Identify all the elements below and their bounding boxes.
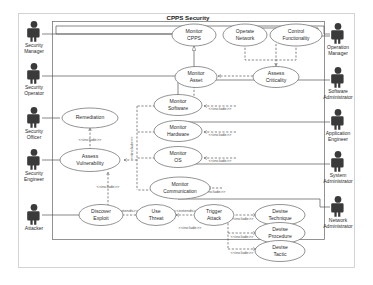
stereotype-include: <<include>> [178, 225, 202, 230]
usecase-label: Trigger [206, 208, 222, 214]
usecase-label: Monitor [170, 150, 187, 156]
usecase-label: Assess [82, 153, 99, 159]
diagram-canvas: CPPS Security Security Manager Security … [0, 0, 373, 285]
usecase-label: Attack [207, 215, 222, 221]
usecase-label: Monitor [172, 181, 189, 187]
actor-icon [331, 196, 343, 217]
usecase-label: Monitor [170, 98, 187, 104]
actor-label: Manager [24, 48, 44, 54]
usecase-monitor-communication[interactable]: Monitor Communication [150, 177, 210, 199]
stereotype-include: <<include>> [129, 136, 134, 160]
actor-icon [331, 67, 343, 88]
actor-application-engineer[interactable]: Application Engineer [326, 109, 351, 142]
actor-label: Engineer [328, 136, 348, 142]
usecase-label: Network [236, 35, 255, 41]
usecase-label: Tactic [273, 251, 286, 257]
usecase-label: Communication [163, 189, 197, 194]
usecase-label: Technique [268, 215, 291, 221]
usecase-discover-exploit[interactable]: Discover Exploit [79, 205, 123, 226]
stereotype-include: <<include>> [208, 106, 232, 111]
include-controlfunc-assesscrit-leg [276, 44, 296, 60]
actor-label: Attacker [25, 225, 44, 231]
usecase-label: Threat [149, 215, 164, 221]
usecase-use-threat[interactable]: Use Threat [136, 205, 176, 226]
usecase-remediation[interactable]: Remediation [62, 108, 118, 128]
usecase-label: Software [168, 105, 188, 111]
actor-icon [27, 21, 39, 42]
actor-software-administrator[interactable]: Software Administrator [323, 67, 353, 100]
usecase-monitor-cpps[interactable]: Monitor CPPS [172, 24, 216, 46]
usecase-label: Monitor [170, 124, 187, 130]
actor-security-officer[interactable]: Security Officer [25, 107, 44, 140]
actor-operation-manager[interactable]: Operation Manager [327, 23, 349, 56]
usecase-label: Devise [272, 208, 288, 214]
actor-icon [27, 107, 39, 128]
usecase-label: Control [288, 28, 304, 34]
usecase-assess-vulnerability[interactable]: Assess Vulnerability [60, 149, 120, 172]
stereotype-include: <<include>> [230, 234, 254, 239]
stereotype-include: <<include>> [96, 184, 120, 189]
actor-icon [27, 204, 39, 225]
usecase-label: Devise [272, 226, 288, 232]
actor-security-manager[interactable]: Security Manager [24, 21, 44, 54]
actor-label: Administrator [323, 223, 353, 229]
actor-label: Administrator [323, 178, 353, 184]
usecase-label: Use [151, 208, 160, 214]
actor-system-administrator[interactable]: System Administrator [323, 151, 353, 184]
usecase-label: Vulnerability [76, 160, 104, 166]
actor-label: Engineer [24, 176, 44, 182]
usecase-shape [270, 24, 322, 46]
usecase-assess-criticality[interactable]: Assess Criticality [253, 67, 299, 88]
actor-icon [331, 151, 343, 172]
stereotype-include: <<include>> [208, 158, 232, 163]
usecase-label: Operate [236, 28, 255, 34]
actor-security-operator[interactable]: Security Operator [24, 63, 44, 96]
usecase-label: Monitor [188, 70, 205, 76]
actor-attacker[interactable]: Attacker [25, 204, 44, 231]
usecase-label: Monitor [186, 28, 203, 34]
actor-label: Operator [24, 90, 44, 96]
usecase-shape [150, 177, 210, 199]
usecase-monitor-software[interactable]: Monitor Software [154, 95, 202, 116]
usecase-label: Procedure [268, 233, 292, 239]
include-operatenet-assesscrit [245, 44, 276, 60]
usecase-trigger-attack[interactable]: Trigger Attack [194, 205, 234, 226]
usecase-label: Functionality [283, 36, 311, 41]
actor-icon [27, 149, 39, 170]
actor-icon [331, 23, 343, 44]
stereotype-include: <<include>> [230, 250, 254, 255]
usecase-monitor-asset[interactable]: Monitor Asset [175, 67, 217, 88]
actor-network-administrator[interactable]: Network Administrator [323, 196, 353, 229]
actor-label: Administrator [323, 94, 353, 100]
usecase-label: Assess [268, 70, 285, 76]
usecase-monitor-os[interactable]: Monitor OS [154, 147, 202, 168]
usecase-label: CPPS [187, 35, 201, 41]
actor-label: Officer [27, 134, 42, 140]
usecase-label: Criticality [266, 77, 287, 83]
usecase-label: OS [174, 157, 182, 163]
stereotype-include: <<include>> [78, 137, 102, 142]
actor-icon [27, 63, 39, 84]
actor-security-engineer[interactable]: Security Engineer [24, 149, 44, 182]
usecase-monitor-hardware[interactable]: Monitor Hardware [154, 121, 202, 142]
usecase-devise-tactic[interactable]: Devise Tactic [255, 241, 305, 262]
usecase-label: Discover [91, 208, 111, 214]
usecase-control-functionality[interactable]: Control Functionality [270, 24, 322, 46]
usecase-label: Exploit [93, 215, 109, 221]
usecase-operate-network[interactable]: Operate Network [223, 24, 267, 46]
stereotype-include: <<include>> [208, 132, 232, 137]
actor-icon [331, 109, 343, 130]
system-title: CPPS Security [167, 14, 211, 21]
actor-label: Manager [328, 50, 348, 56]
usecase-label: Devise [272, 244, 288, 250]
use-case-diagram: CPPS Security Security Manager Security … [0, 0, 373, 285]
usecase-label: Hardware [167, 131, 189, 137]
usecase-label: Asset [190, 77, 203, 83]
usecase-label: Remediation [76, 114, 105, 120]
